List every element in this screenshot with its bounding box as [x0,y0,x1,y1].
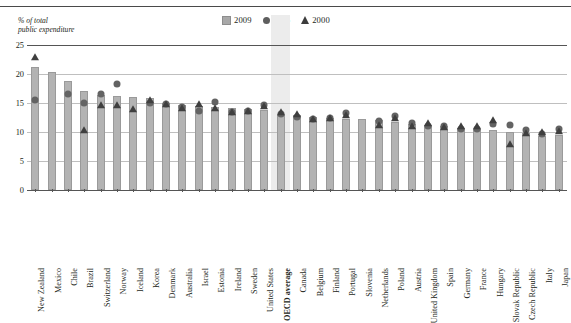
marker-2005[interactable] [32,96,39,103]
marker-2000[interactable] [97,101,105,108]
marker-2000[interactable] [555,128,563,135]
marker-2005[interactable] [97,91,104,98]
marker-2000[interactable] [129,105,137,112]
bar-group[interactable] [342,13,350,190]
bar-2009[interactable] [424,125,432,190]
bar-group[interactable] [146,13,154,190]
bar-2009[interactable] [408,124,416,190]
bar-2009[interactable] [244,109,252,190]
bar-group[interactable] [522,13,530,190]
bar-2009[interactable] [309,117,317,190]
marker-2000[interactable] [211,104,219,111]
bar-2009[interactable] [64,81,72,190]
bar-2009[interactable] [391,122,399,190]
marker-2005[interactable] [114,80,121,87]
bar-group[interactable] [195,13,203,190]
marker-2000[interactable] [391,114,399,121]
marker-2005[interactable] [195,108,202,115]
bar-2009[interactable] [31,67,39,190]
bar-group[interactable] [64,13,72,190]
marker-2005[interactable] [506,122,513,129]
marker-2000[interactable] [260,103,268,110]
marker-2000[interactable] [31,53,39,60]
bar-group[interactable] [31,13,39,190]
marker-2000[interactable] [538,128,546,135]
bar-2009[interactable] [228,108,236,190]
bar-2009[interactable] [555,135,563,190]
marker-2000[interactable] [309,115,317,122]
marker-2000[interactable] [440,124,448,131]
bar-2009[interactable] [113,96,121,190]
marker-2000[interactable] [457,122,465,129]
marker-2005[interactable] [64,90,71,97]
bar-group[interactable] [129,13,137,190]
bar-group[interactable] [260,13,268,190]
bar-group[interactable] [113,13,121,190]
bar-2009[interactable] [522,133,530,190]
marker-2000[interactable] [342,111,350,118]
bar-group[interactable] [228,13,236,190]
bar-2009[interactable] [178,105,186,190]
bar-2009[interactable] [162,103,170,190]
bar-2009[interactable] [473,129,481,190]
bar-2009[interactable] [293,115,301,190]
marker-2000[interactable] [228,108,236,115]
marker-2005[interactable] [81,100,88,107]
bar-group[interactable] [211,13,219,190]
marker-2000[interactable] [80,126,88,133]
bar-2009[interactable] [457,128,465,190]
bar-group[interactable] [309,13,317,190]
bar-group[interactable] [473,13,481,190]
marker-2000[interactable] [506,140,514,147]
marker-2000[interactable] [326,114,334,121]
bar-group[interactable] [277,13,285,190]
bar-group[interactable] [440,13,448,190]
bar-2009[interactable] [211,107,219,190]
bar-group[interactable] [489,13,497,190]
bar-group[interactable] [162,13,170,190]
bar-group[interactable] [457,13,465,190]
bar-group[interactable] [506,13,514,190]
bar-group[interactable] [391,13,399,190]
bar-group[interactable] [178,13,186,190]
marker-2000[interactable] [277,108,285,115]
bar-2009[interactable] [48,72,56,190]
marker-2000[interactable] [195,100,203,107]
bar-group[interactable] [244,13,252,190]
bar-2009[interactable] [277,115,285,190]
bar-2009[interactable] [195,106,203,190]
bar-group[interactable] [326,13,334,190]
marker-2000[interactable] [375,121,383,128]
bar-2009[interactable] [538,136,546,190]
marker-2000[interactable] [424,119,432,126]
bar-2009[interactable] [358,119,366,190]
bar-group[interactable] [424,13,432,190]
marker-2000[interactable] [473,122,481,129]
bar-2009[interactable] [260,110,268,190]
bar-group[interactable] [555,13,563,190]
bar-group[interactable] [538,13,546,190]
marker-2000[interactable] [489,117,497,124]
bar-2009[interactable] [489,130,497,190]
marker-2000[interactable] [113,101,121,108]
bar-2009[interactable] [375,120,383,190]
bar-group[interactable] [293,13,301,190]
bar-2009[interactable] [146,98,154,190]
bar-2009[interactable] [440,126,448,190]
bar-group[interactable] [97,13,105,190]
bar-group[interactable] [48,13,56,190]
bar-group[interactable] [375,13,383,190]
marker-2000[interactable] [146,96,154,103]
bar-group[interactable] [358,13,366,190]
marker-2000[interactable] [408,122,416,129]
marker-2000[interactable] [244,107,252,114]
bar-2009[interactable] [97,95,105,190]
bar-group[interactable] [408,13,416,190]
marker-2000[interactable] [293,110,301,117]
bar-2009[interactable] [326,118,334,190]
marker-2000[interactable] [522,129,530,136]
marker-2000[interactable] [162,100,170,107]
marker-2000[interactable] [178,104,186,111]
bar-2009[interactable] [342,119,350,190]
bar-group[interactable] [80,13,88,190]
